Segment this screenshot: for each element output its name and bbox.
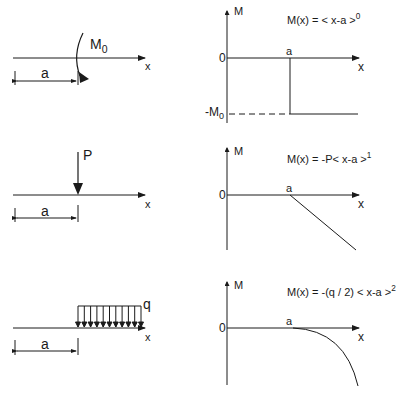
dimension-a-label: a	[41, 337, 49, 351]
neg-m0-subscript: 0	[219, 111, 224, 121]
m-axis-label: M	[234, 146, 243, 157]
equation: M(x) = < x-a >0	[287, 13, 360, 26]
moment-subscript: 0	[102, 43, 108, 55]
x-axis-label: x	[358, 198, 364, 210]
origin-label: 0	[219, 189, 226, 201]
m-axis-label: M	[234, 280, 243, 291]
neg-m0-symbol: -M	[205, 105, 219, 119]
dimension-a-label: a	[41, 204, 49, 218]
beam-x-label: x	[145, 332, 151, 343]
beam-x-label: x	[145, 199, 151, 210]
x-axis-label: x	[358, 331, 364, 343]
beam-x-label: x	[145, 61, 151, 72]
moment-label: M0	[90, 37, 108, 54]
moment-arc-icon	[77, 33, 83, 76]
equation-text: M(x) = -(q / 2) < x-a >	[287, 286, 391, 298]
distributed-load-label: q	[143, 297, 151, 311]
moment-arrowhead-icon	[79, 72, 89, 83]
force-arrowhead-icon	[73, 183, 83, 195]
beam-distributed-load	[13, 306, 145, 355]
equation-exponent: 1	[367, 151, 372, 160]
graph-moment	[227, 11, 359, 123]
equation: M(x) = -(q / 2) < x-a >2	[287, 285, 396, 298]
diagram-canvas	[0, 0, 401, 396]
a-label: a	[286, 316, 292, 327]
moment-symbol: M	[90, 36, 102, 52]
equation-exponent: 0	[356, 12, 361, 21]
a-label: a	[286, 183, 292, 194]
a-label: a	[286, 46, 292, 57]
origin-label: 0	[219, 322, 226, 334]
beam-moment-load	[13, 33, 145, 85]
equation-text: M(x) = -P< x-a >	[287, 153, 367, 165]
equation: M(x) = -P< x-a >1	[287, 152, 371, 165]
ramp-line	[290, 195, 356, 250]
neg-m0-label: -M0	[205, 106, 224, 121]
m-axis-label: M	[234, 6, 243, 17]
equation-text: M(x) = < x-a >	[287, 14, 356, 26]
parabola-curve	[293, 328, 358, 386]
equation-exponent: 2	[391, 284, 396, 293]
x-axis-label: x	[358, 61, 364, 73]
origin-label: 0	[219, 52, 226, 64]
force-label: P	[83, 148, 92, 162]
dimension-a-label: a	[41, 66, 49, 80]
beam-point-load	[13, 152, 145, 222]
distributed-load-arrows-icon	[76, 306, 144, 327]
